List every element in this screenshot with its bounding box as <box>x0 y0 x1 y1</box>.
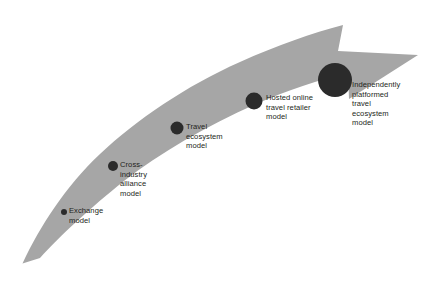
stage-marker-hosted-online-travel-retailer-model <box>246 93 263 110</box>
stage-marker-exchange-model <box>61 209 67 215</box>
stage-marker-independently-platformed-travel-ecosystem-model <box>318 63 352 97</box>
stage-label-independently-platformed-travel-ecosystem-model: Independently platformed travel ecosyste… <box>352 80 400 128</box>
stage-marker-travel-ecosystem-model <box>171 122 184 135</box>
stage-label-exchange-model: Exchange model <box>69 206 103 225</box>
stage-label-cross-industry-alliance-model: Cross- industry alliance model <box>120 160 147 198</box>
stage-label-hosted-online-travel-retailer-model: Hosted online travel retailer model <box>266 93 313 122</box>
stage-label-travel-ecosystem-model: Travel ecosystem model <box>186 122 223 151</box>
diagram-canvas: Exchange model Cross- industry alliance … <box>0 0 432 281</box>
stage-marker-cross-industry-alliance-model <box>108 161 118 171</box>
